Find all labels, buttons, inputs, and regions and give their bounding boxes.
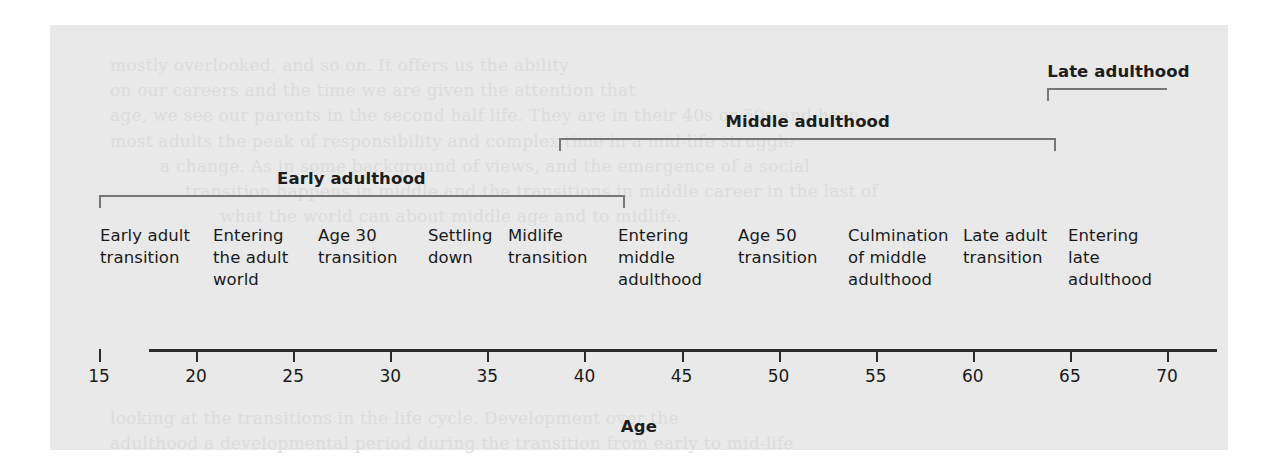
axis-tick <box>293 349 295 362</box>
axis-tick <box>99 349 101 362</box>
stage-label: Entering middle adulthood <box>618 225 723 290</box>
figure-panel: mostly overlooked, and so on. It offers … <box>50 25 1228 450</box>
axis-title: Age <box>50 417 1228 436</box>
axis-tick <box>973 349 975 362</box>
stage-label: Late adult transition <box>963 225 1063 269</box>
bleed-text-line: on our careers and the time we are given… <box>110 80 635 100</box>
axis-tick-label: 55 <box>865 366 887 386</box>
axis-tick-label: 25 <box>282 366 304 386</box>
bleed-text-line: adulthood a developmental period during … <box>110 433 794 453</box>
axis-tick <box>682 349 684 362</box>
era-label: Middle adulthood <box>726 112 890 131</box>
axis-tick <box>196 349 198 362</box>
axis-tick-label: 70 <box>1156 366 1178 386</box>
axis-tick-label: 20 <box>185 366 207 386</box>
axis-tick-label: 45 <box>671 366 693 386</box>
stage-label: Entering the adult world <box>213 225 313 290</box>
stage-label-row: Early adult transitionEntering the adult… <box>50 225 1228 320</box>
stage-label: Culmination of middle adulthood <box>848 225 958 290</box>
axis-tick-label: 30 <box>379 366 401 386</box>
era-bracket <box>99 195 625 208</box>
axis-tick-label: 50 <box>768 366 790 386</box>
bleed-text-line: mostly overlooked, and so on. It offers … <box>110 55 569 75</box>
axis-tick-label: 15 <box>88 366 110 386</box>
axis-tick <box>390 349 392 362</box>
axis-tick <box>1167 349 1169 362</box>
era-bracket <box>559 138 1056 151</box>
stage-label: Age 50 transition <box>738 225 838 269</box>
axis-tick <box>779 349 781 362</box>
stage-label: Age 30 transition <box>318 225 418 269</box>
axis-tick-label: 60 <box>962 366 984 386</box>
era-label: Late adulthood <box>1047 62 1189 81</box>
stage-label: Settling down <box>428 225 503 269</box>
axis-tick <box>876 349 878 362</box>
bleed-text-line: a change. As in some background of views… <box>160 156 810 176</box>
axis-tick-label: 35 <box>477 366 499 386</box>
bleed-text-line: what the world can about middle age and … <box>220 206 682 226</box>
axis-tick-label: 40 <box>574 366 596 386</box>
axis-tick-label: 65 <box>1059 366 1081 386</box>
stage-label: Early adult transition <box>100 225 208 269</box>
stage-label: Midlife transition <box>508 225 608 269</box>
axis-tick <box>584 349 586 362</box>
axis-tick <box>487 349 489 362</box>
era-label: Early adulthood <box>277 169 426 188</box>
axis-tick <box>1070 349 1072 362</box>
stage-label: Entering late adulthood <box>1068 225 1163 290</box>
era-bracket <box>1047 88 1167 101</box>
